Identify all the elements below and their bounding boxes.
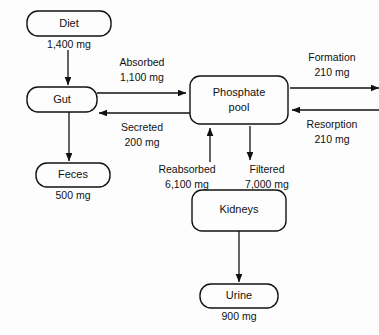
node-diet[interactable]: Diet 1,400 mg <box>27 11 111 50</box>
flow-absorbed: Absorbed 1,100 mg <box>97 56 186 93</box>
node-kidneys[interactable]: Kidneys <box>192 190 286 231</box>
filtered-amount: 7,000 mg <box>245 178 289 190</box>
flow-filtered: Filtered 7,000 mg <box>245 126 289 190</box>
node-phosphate-pool[interactable]: Phosphate pool <box>190 76 288 124</box>
gut-label: Gut <box>53 93 71 105</box>
formation-label: Formation <box>308 51 355 63</box>
feces-label: Feces <box>58 168 88 180</box>
resorption-label: Resorption <box>307 118 358 130</box>
node-gut[interactable]: Gut <box>27 87 97 112</box>
diagram-canvas: Absorbed 1,100 mg Secreted 200 mg Format… <box>0 0 379 335</box>
phosphate-balance-diagram: Absorbed 1,100 mg Secreted 200 mg Format… <box>0 0 379 335</box>
kidneys-label: Kidneys <box>219 203 259 215</box>
phosphate-pool-label-line2: pool <box>229 101 250 113</box>
urine-amount: 900 mg <box>221 310 256 322</box>
flow-resorption: Resorption 210 mg <box>292 110 379 145</box>
flow-reabsorbed: Reabsorbed 6,100 mg <box>158 128 215 190</box>
reabsorbed-label: Reabsorbed <box>158 163 215 175</box>
feces-amount: 500 mg <box>55 189 90 201</box>
node-feces[interactable]: Feces 500 mg <box>36 163 110 201</box>
filtered-label: Filtered <box>249 163 284 175</box>
resorption-amount: 210 mg <box>314 133 349 145</box>
urine-label: Urine <box>226 289 252 301</box>
phosphate-pool-label-line1: Phosphate <box>213 86 266 98</box>
secreted-amount: 200 mg <box>124 136 159 148</box>
formation-amount: 210 mg <box>314 66 349 78</box>
secreted-label: Secreted <box>121 121 163 133</box>
node-urine[interactable]: Urine 900 mg <box>200 284 278 322</box>
absorbed-label: Absorbed <box>120 56 165 68</box>
reabsorbed-amount: 6,100 mg <box>165 178 209 190</box>
absorbed-amount: 1,100 mg <box>120 71 164 83</box>
diet-amount: 1,400 mg <box>47 38 91 50</box>
flow-formation: Formation 210 mg <box>290 51 379 88</box>
diet-label: Diet <box>59 17 79 29</box>
flow-secreted: Secreted 200 mg <box>99 113 190 148</box>
